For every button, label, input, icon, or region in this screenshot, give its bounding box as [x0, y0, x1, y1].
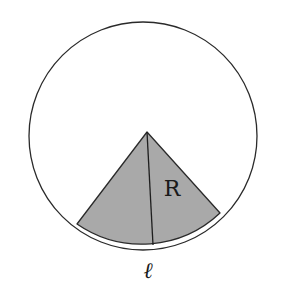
radius-label: R — [164, 176, 182, 201]
arc-length-label: ℓ — [143, 258, 153, 283]
circle-sector-diagram: R ℓ — [0, 0, 281, 291]
